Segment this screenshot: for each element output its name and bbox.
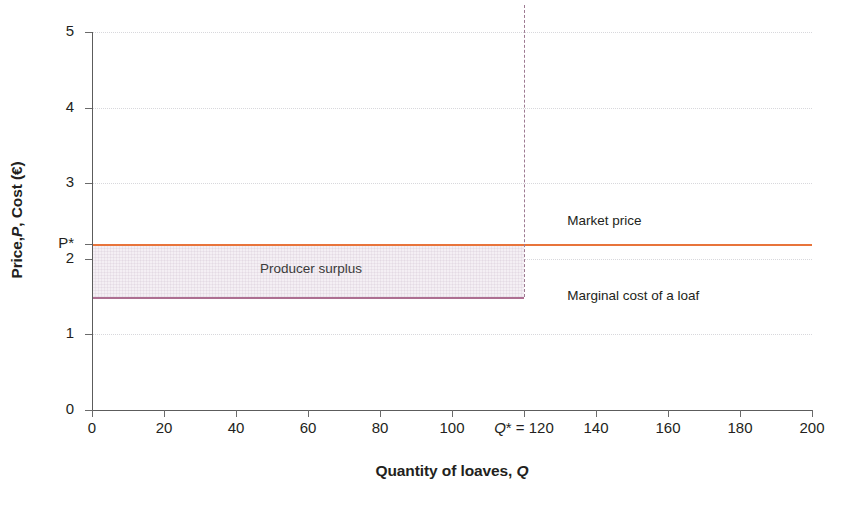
y-tick-label: 2 (12, 249, 74, 266)
y-tick-mark (85, 259, 92, 260)
y-tick-mark (85, 183, 92, 184)
market-price-label: Market price (567, 213, 641, 228)
y-axis-title-suffix: , Cost (€) (8, 161, 26, 226)
y-tick-label: 1 (12, 324, 74, 341)
y-axis-title: Price, P, Cost (€) (0, 10, 34, 430)
marginal-cost-line (92, 297, 524, 299)
x-tick-mark (452, 410, 453, 417)
y-tick-mark (85, 334, 92, 335)
x-tick-label: 200 (767, 419, 851, 436)
plot-area: Producer surplus Market price Marginal c… (92, 32, 812, 410)
x-tick-mark (668, 410, 669, 417)
y-tick-label: 3 (12, 173, 74, 190)
gridline-horizontal (92, 334, 812, 335)
x-tick-mark (524, 410, 525, 417)
x-tick-mark (596, 410, 597, 417)
x-tick-mark (164, 410, 165, 417)
marginal-cost-label: Marginal cost of a loaf (567, 288, 699, 303)
x-tick-mark (812, 410, 813, 417)
y-tick-mark (85, 32, 92, 33)
y-tick-mark (85, 108, 92, 109)
x-axis-title-variable: Q (517, 462, 529, 479)
equilibrium-quantity-dashed-line (524, 5, 525, 297)
y-axis-line (92, 32, 93, 411)
y-tick-label: 5 (12, 22, 74, 39)
y-tick-mark-pstar (85, 244, 92, 245)
x-axis-title: Quantity of loaves, Q (92, 462, 812, 480)
y-tick-label-pstar: P* (12, 234, 74, 251)
x-axis-title-prefix: Quantity of loaves, (376, 462, 517, 479)
x-tick-mark (380, 410, 381, 417)
x-tick-mark (308, 410, 309, 417)
producer-surplus-chart: Price, P, Cost (€) Quantity of loaves, Q… (0, 0, 851, 520)
gridline-horizontal (92, 108, 812, 109)
y-tick-mark (85, 410, 92, 411)
market-price-line (92, 244, 812, 246)
y-tick-label: 0 (12, 400, 74, 417)
gridline-horizontal (92, 183, 812, 184)
x-tick-mark (92, 410, 93, 417)
x-tick-mark (740, 410, 741, 417)
producer-surplus-label: Producer surplus (260, 261, 362, 276)
gridline-horizontal (92, 32, 812, 33)
x-tick-mark (236, 410, 237, 417)
y-tick-label: 4 (12, 98, 74, 115)
